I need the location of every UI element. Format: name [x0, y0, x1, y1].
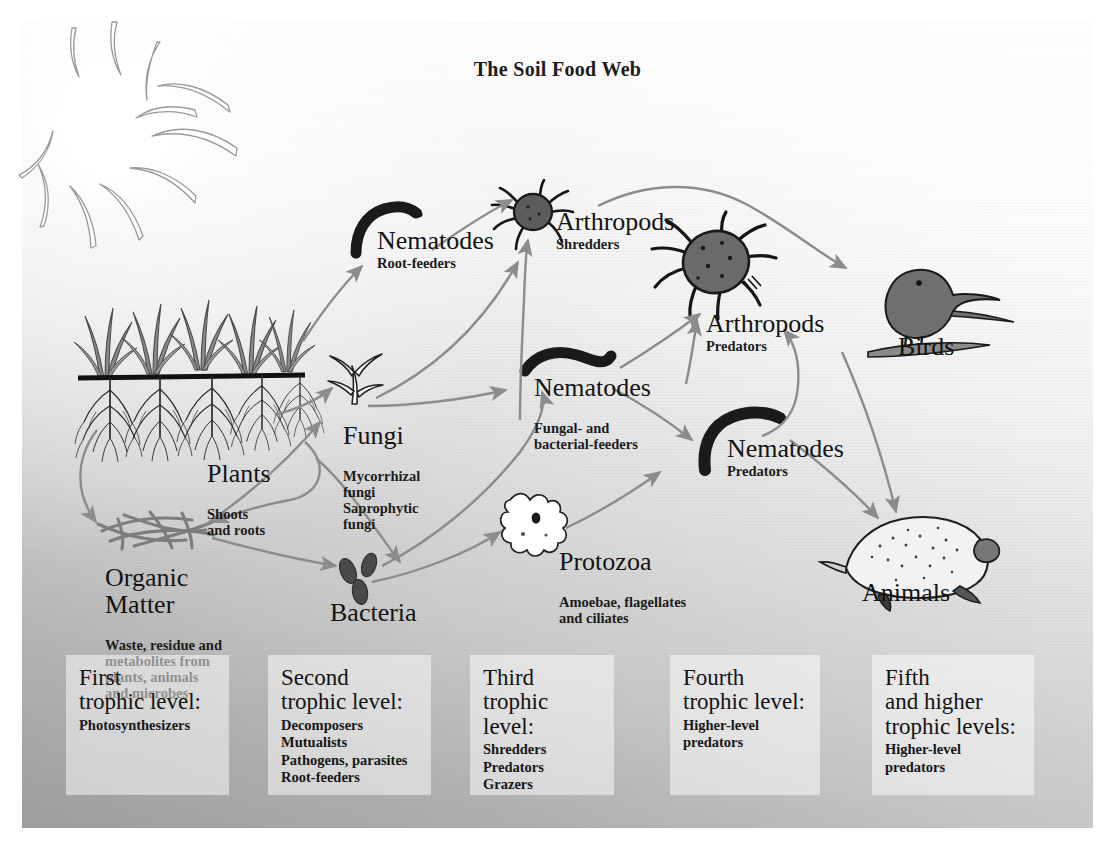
trophic-item: Higher-level	[683, 717, 808, 734]
node-label-arthropods-predators: Arthropods Predators	[706, 311, 824, 354]
trophic-item: Shredders	[483, 741, 602, 758]
node-title: Animals	[862, 580, 950, 607]
node-subtitle: Amoebae, flagellates and ciliates	[559, 594, 686, 626]
node-label-arthropods-shredders: Arthropods Shredders	[556, 209, 674, 252]
trophic-title: Fifth and higher trophic levels:	[885, 666, 1022, 739]
node-title: Nematodes	[727, 436, 844, 463]
node-title: Protozoa	[559, 549, 686, 576]
trophic-title: Fourth trophic level:	[683, 666, 808, 715]
trophic-items: Higher-levelpredators	[885, 741, 1022, 776]
trophic-item: Grazers	[483, 776, 602, 793]
node-label-plants: Plants Shoots and roots	[207, 443, 271, 556]
trophic-item: Root-feeders	[281, 769, 419, 786]
trophic-items: Higher-levelpredators	[683, 717, 808, 752]
node-title: Bacteria	[330, 600, 417, 627]
node-label-animals: Animals	[862, 580, 950, 607]
node-label-nematodes-predators: Nematodes Predators	[727, 436, 844, 479]
node-title: Nematodes	[377, 228, 494, 255]
trophic-items: DecomposersMutualistsPathogens, parasite…	[281, 717, 419, 787]
node-label-bacteria: Bacteria	[330, 600, 417, 627]
node-title: Organic Matter	[105, 565, 222, 619]
node-label-fungi: Fungi Mycorrhizal fungi Saprophytic fung…	[343, 405, 420, 551]
node-label-protozoa: Protozoa Amoebae, flagellates and ciliat…	[559, 531, 686, 644]
trophic-item: predators	[885, 759, 1022, 776]
node-title: Arthropods	[556, 209, 674, 236]
trophic-level-box-2: Second trophic level: DecomposersMutuali…	[268, 655, 431, 795]
node-subtitle: Shoots and roots	[207, 506, 271, 538]
trophic-item: Pathogens, parasites	[281, 752, 419, 769]
node-title: Nematodes	[534, 375, 651, 402]
soil-food-web-diagram: The Soil Food Web Nematodes Root-feeders…	[0, 0, 1115, 849]
node-title: Arthropods	[706, 311, 824, 338]
node-label-birds: Birds	[898, 334, 954, 361]
trophic-level-box-5: Fifth and higher trophic levels: Higher-…	[872, 655, 1034, 795]
trophic-level-box-1: First trophic level: Photosynthesizers	[66, 655, 229, 795]
trophic-item: Predators	[483, 759, 602, 776]
node-subtitle: Predators	[706, 338, 824, 354]
trophic-items: ShreddersPredatorsGrazers	[483, 741, 602, 793]
node-label-nematodes-root-feeders: Nematodes Root-feeders	[377, 228, 494, 271]
trophic-level-box-4: Fourth trophic level: Higher-levelpredat…	[670, 655, 820, 795]
node-label-nematodes-fungal-bacterial: Nematodes Fungal- and bacterial-feeders	[534, 357, 651, 470]
node-subtitle: Shredders	[556, 236, 674, 252]
node-subtitle: Root-feeders	[377, 255, 494, 271]
trophic-item: Mutualists	[281, 734, 419, 751]
trophic-title: Second trophic level:	[281, 666, 419, 715]
trophic-title: Third trophic level:	[483, 666, 602, 739]
node-title: Plants	[207, 461, 271, 488]
trophic-item: predators	[683, 734, 808, 751]
node-subtitle: Fungal- and bacterial-feeders	[534, 420, 651, 452]
trophic-item: Decomposers	[281, 717, 419, 734]
node-subtitle: Predators	[727, 463, 844, 479]
trophic-item: Photosynthesizers	[79, 717, 217, 734]
node-subtitle: Mycorrhizal fungi Saprophytic fungi	[343, 468, 420, 533]
page-title: The Soil Food Web	[0, 58, 1115, 81]
trophic-items: Photosynthesizers	[79, 717, 217, 734]
node-title: Birds	[898, 334, 954, 361]
trophic-title: First trophic level:	[79, 666, 217, 715]
trophic-item: Higher-level	[885, 741, 1022, 758]
node-title: Fungi	[343, 423, 420, 450]
trophic-level-box-3: Third trophic level: ShreddersPredatorsG…	[470, 655, 614, 795]
